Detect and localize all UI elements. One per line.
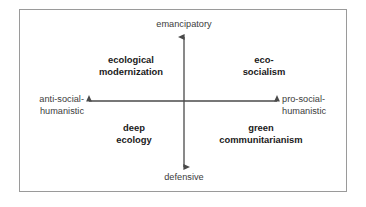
axis-label-emancipatory: emancipatory: [156, 19, 211, 31]
quadrant-label-deep-ecology: deep ecology: [116, 122, 151, 146]
axis-label-emancipatory-line1: emancipatory: [156, 19, 211, 31]
axis-label-pro-social-humanistic-line2: humanistic: [282, 106, 326, 118]
quadrant-label-eco-socialism-line1: eco-: [243, 54, 286, 66]
axis-label-pro-social-humanistic-line1: pro-social-: [282, 94, 326, 106]
axis-label-anti-social-humanistic-line2: humanistic: [39, 106, 84, 118]
axis-label-defensive-line1: defensive: [164, 172, 204, 184]
quadrant-label-deep-ecology-line2: ecology: [116, 134, 151, 146]
axis-label-pro-social-humanistic: pro-social- humanistic: [282, 94, 326, 117]
quadrant-label-ecological-modernization-line2: modernization: [99, 66, 163, 78]
quadrant-label-eco-socialism-line2: socialism: [243, 66, 286, 78]
quadrant-label-deep-ecology-line1: deep: [116, 122, 151, 134]
quadrant-label-green-communitarianism: green communitarianism: [219, 122, 302, 146]
axis-label-anti-social-humanistic: anti-social- humanistic: [39, 94, 84, 117]
axis-label-anti-social-humanistic-line1: anti-social-: [39, 94, 84, 106]
quadrant-label-ecological-modernization-line1: ecological: [99, 54, 163, 66]
quadrant-label-ecological-modernization: ecological modernization: [99, 54, 163, 78]
quadrant-diagram: emancipatory defensive anti-social- huma…: [0, 0, 366, 207]
axis-label-defensive: defensive: [164, 172, 204, 184]
quadrant-label-green-communitarianism-line1: green: [219, 122, 302, 134]
quadrant-label-eco-socialism: eco- socialism: [243, 54, 286, 78]
quadrant-label-green-communitarianism-line2: communitarianism: [219, 134, 302, 146]
